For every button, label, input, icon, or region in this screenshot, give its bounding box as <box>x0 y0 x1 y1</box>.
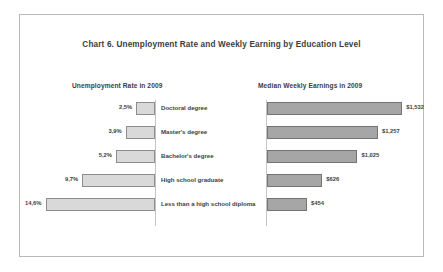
chart-row: 2,5%Doctoral degree$1,532 <box>0 98 443 122</box>
unemployment-bar[interactable] <box>136 102 155 115</box>
earnings-bar[interactable] <box>267 174 322 187</box>
chart-row: 3,9%Master's degree$1,257 <box>0 122 443 146</box>
panel-heading-unemployment: Unemployment Rate in 2009 <box>72 82 162 89</box>
unemployment-bar-holder: 3,9% <box>0 122 155 146</box>
earnings-bar[interactable] <box>267 150 357 163</box>
panel-heading-earnings: Median Weekly Earnings in 2009 <box>258 82 362 89</box>
unemployment-bar[interactable] <box>126 126 155 139</box>
earnings-bar-holder: $1,532 <box>267 98 443 122</box>
earnings-bar-holder: $1,257 <box>267 122 443 146</box>
earnings-value-label: $1,532 <box>406 104 424 110</box>
earnings-value-label: $454 <box>311 200 324 206</box>
chart-row: 5,2%Bachelor's degree$1,025 <box>0 146 443 170</box>
earnings-value-label: $626 <box>326 176 339 182</box>
unemployment-value-label: 2,5% <box>119 104 132 110</box>
unemployment-bar[interactable] <box>116 150 155 163</box>
unemployment-value-label: 5,2% <box>99 152 112 158</box>
unemployment-value-label: 14,6% <box>25 200 41 206</box>
earnings-bar-holder: $626 <box>267 170 443 194</box>
earnings-bar[interactable] <box>267 102 402 115</box>
unemployment-value-label: 3,9% <box>109 128 122 134</box>
unemployment-bar-holder: 9,7% <box>0 170 155 194</box>
chart-row: 9,7%High school graduate$626 <box>0 170 443 194</box>
chart-row: 14,6%Less than a high school diploma$454 <box>0 194 443 218</box>
earnings-bar[interactable] <box>267 198 307 211</box>
category-label: Master's degree <box>161 128 207 135</box>
plot-area: 2,5%Doctoral degree$1,5323,9%Master's de… <box>0 98 443 228</box>
earnings-bar-holder: $454 <box>267 194 443 218</box>
earnings-value-label: $1,257 <box>382 128 400 134</box>
chart-title: Chart 6. Unemployment Rate and Weekly Ea… <box>19 40 424 49</box>
unemployment-bar-holder: 14,6% <box>0 194 155 218</box>
earnings-bar[interactable] <box>267 126 378 139</box>
unemployment-bar[interactable] <box>82 174 155 187</box>
unemployment-bar[interactable] <box>46 198 156 211</box>
earnings-value-label: $1,025 <box>361 152 379 158</box>
category-label: Bachelor's degree <box>161 152 214 159</box>
unemployment-bar-holder: 5,2% <box>0 146 155 170</box>
category-label: Doctoral degree <box>161 104 207 111</box>
category-label: Less than a high school diploma <box>161 200 255 207</box>
chart-figure: Chart 6. Unemployment Rate and Weekly Ea… <box>0 0 443 272</box>
unemployment-value-label: 9,7% <box>65 176 78 182</box>
category-label: High school graduate <box>161 176 223 183</box>
earnings-bar-holder: $1,025 <box>267 146 443 170</box>
unemployment-bar-holder: 2,5% <box>0 98 155 122</box>
